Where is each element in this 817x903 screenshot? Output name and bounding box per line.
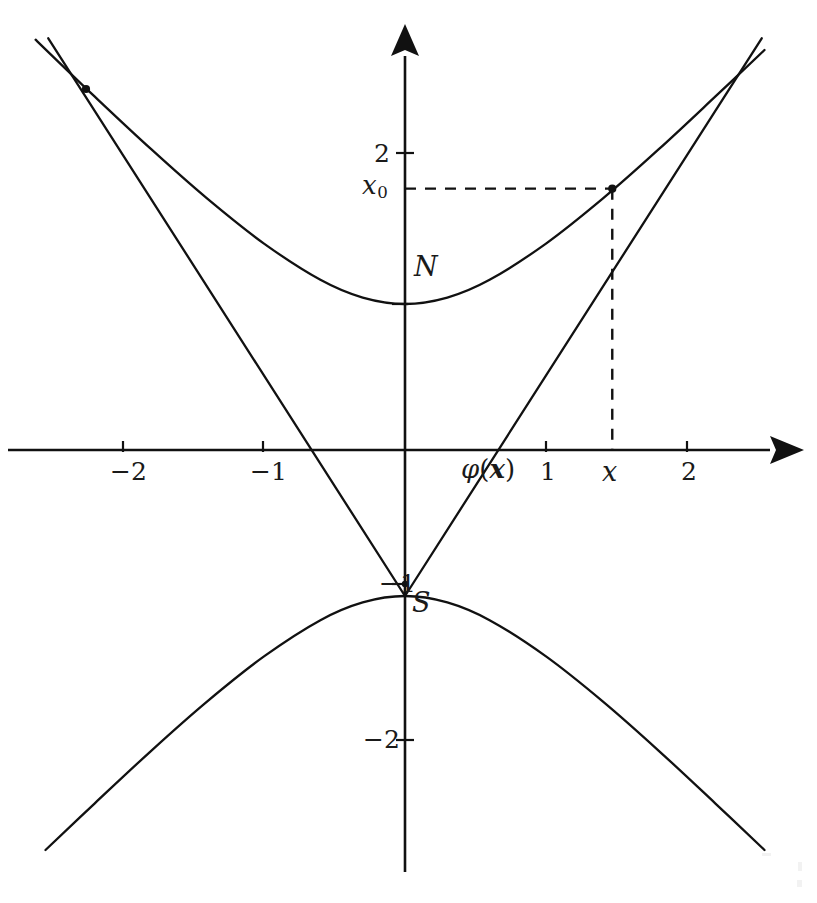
x-tick-label-pos2: 2 [681, 459, 697, 484]
y-label-x0-subscript: 0 [377, 183, 388, 202]
upper-branch-curve [36, 40, 765, 304]
y-tick-label-neg2: −2 [363, 727, 400, 752]
y-label-x0-base: x [362, 170, 377, 200]
y-axis-arrowhead [391, 24, 419, 56]
x-axis-arrowhead [770, 436, 804, 464]
phi-symbol: φ [461, 454, 479, 484]
figure-canvas: −2 −1 1 2 2 −1 −2 x0 x N S φ(x) [0, 0, 817, 903]
x-label-x-marker: x [602, 458, 617, 485]
point-p-mirror [82, 85, 90, 93]
y-axis-ticks [392, 153, 414, 740]
x-tick-label-pos1: 1 [540, 459, 556, 484]
x-tick-label-neg2: −2 [110, 459, 147, 484]
point-p-upper [608, 185, 616, 193]
label-north-pole: N [414, 253, 438, 280]
y-label-x0: x0 [362, 172, 388, 201]
axes-group [8, 24, 804, 872]
phi-paren-close: ) [505, 454, 515, 484]
figure-drawing [0, 0, 817, 903]
label-south-pole: S [412, 589, 431, 616]
x-tick-label-neg1: −1 [250, 459, 287, 484]
label-phi-of-x: φ(x) [461, 456, 515, 482]
phi-argument: x [489, 454, 505, 484]
ray-from-s-right [405, 38, 762, 596]
y-tick-label-pos2: 2 [374, 141, 390, 166]
phi-paren-open: ( [479, 454, 489, 484]
ray-from-s-left [48, 38, 405, 596]
y-tick-label-neg1: −1 [379, 571, 416, 596]
